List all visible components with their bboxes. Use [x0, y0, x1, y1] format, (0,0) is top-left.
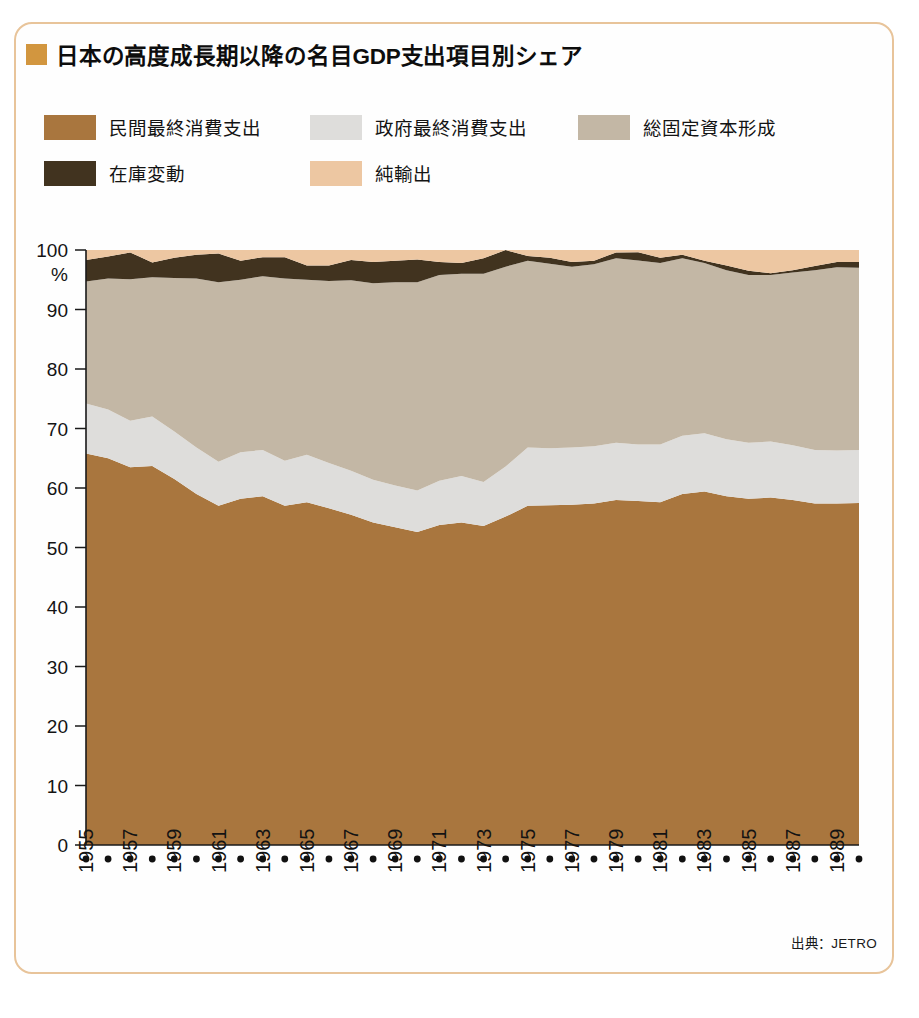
title-text: 日本の高度成長期以降の名目GDP支出項目別シェア: [56, 38, 583, 70]
source-note: 出典：JETRO: [791, 932, 877, 952]
legend-swatch-private-consumption: [44, 115, 96, 140]
legend-item-gross-fixed-capital-formation: 総固定資本形成: [578, 114, 828, 140]
legend-label-gross-fixed-capital-formation: 総固定資本形成: [643, 114, 776, 140]
chart-legend: 民間最終消費支出 政府最終消費支出 総固定資本形成 在庫変動 純輸出: [44, 104, 844, 196]
legend-row-1: 民間最終消費支出 政府最終消費支出 総固定資本形成: [44, 104, 844, 150]
legend-label-private-consumption: 民間最終消費支出: [109, 114, 261, 140]
legend-swatch-inventory-change: [44, 161, 96, 186]
legend-item-government-consumption: 政府最終消費支出: [310, 114, 578, 140]
legend-swatch-gross-fixed-capital-formation: [578, 115, 630, 140]
legend-label-inventory-change: 在庫変動: [109, 160, 185, 186]
legend-item-net-exports: 純輸出: [310, 160, 578, 186]
legend-swatch-net-exports: [310, 161, 362, 186]
legend-label-government-consumption: 政府最終消費支出: [375, 114, 527, 140]
legend-label-net-exports: 純輸出: [375, 160, 432, 186]
legend-item-private-consumption: 民間最終消費支出: [44, 114, 310, 140]
page-title: 日本の高度成長期以降の名目GDP支出項目別シェア: [26, 38, 583, 70]
legend-swatch-government-consumption: [310, 115, 362, 140]
legend-row-2: 在庫変動 純輸出: [44, 150, 844, 196]
title-bullet-square: [26, 44, 47, 65]
legend-item-inventory-change: 在庫変動: [44, 160, 310, 186]
